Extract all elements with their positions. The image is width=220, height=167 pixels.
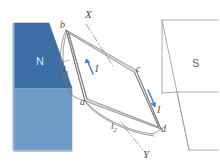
axis-bottom-label-Y: Y xyxy=(143,149,149,160)
axis-top-label-X: X xyxy=(85,9,92,20)
lead-wire-from-a xyxy=(85,101,152,134)
coil-side-length-label-l1: l1 xyxy=(63,65,69,76)
south-pole-magnet xyxy=(162,20,218,150)
south-pole-label: S xyxy=(192,58,199,69)
north-magnet-bottom-shadow xyxy=(14,150,72,152)
coil-side-length-label-l2: l2 xyxy=(111,122,117,133)
south-magnet-shelf-vertical xyxy=(177,92,189,150)
south-magnet-middle-left xyxy=(162,92,177,93)
rectangular-coil-abcd xyxy=(66,30,161,129)
l1-sub: 1 xyxy=(66,69,69,76)
coil-vertex-label-a: a xyxy=(80,97,85,107)
coil-vertex-label-c: c xyxy=(136,64,140,74)
coil-vertex-label-b: b xyxy=(60,20,65,30)
lead-wire-joiner-2 xyxy=(152,129,161,134)
north-magnet-left-shadow xyxy=(13,23,15,151)
north-magnet-lower-face xyxy=(14,88,72,151)
north-pole-magnet xyxy=(13,23,73,152)
figure-canvas xyxy=(0,0,220,167)
coil-turn-outer xyxy=(66,30,161,129)
north-pole-label: N xyxy=(36,56,44,67)
physics-figure-coil-between-magnets: N S X Y b c d a l1 l2 I I xyxy=(0,0,220,167)
coil-vertex-label-d: d xyxy=(161,124,166,134)
current-label-right-I: I xyxy=(157,105,160,115)
current-arrow-left-head xyxy=(84,58,90,63)
current-label-left-I: I xyxy=(95,64,98,74)
lead-wire-from-a-2 xyxy=(86,103,154,136)
lead-tick-l1 xyxy=(63,60,69,62)
l2-sub: 2 xyxy=(114,126,117,133)
